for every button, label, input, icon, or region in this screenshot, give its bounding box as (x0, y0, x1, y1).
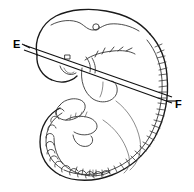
somite-tick (154, 120, 162, 122)
section-leader-left (22, 44, 30, 48)
dorsal-inner-line (64, 40, 162, 175)
somites-dorsal-group (75, 44, 167, 176)
somite-tick (159, 80, 167, 81)
inner-tail-marks-group (66, 112, 97, 177)
head-inner-contour (51, 21, 139, 31)
heart-inner-mark (100, 82, 103, 97)
hindgut-tick (85, 112, 87, 117)
head-group (36, 9, 150, 82)
arch-tooth-2 (102, 48, 105, 54)
tail-scallop (46, 133, 54, 138)
somite-tick (152, 125, 160, 128)
dorsal-outline (60, 34, 168, 180)
hindgut-outline (66, 116, 97, 135)
somite-tick (159, 74, 167, 75)
hindgut-tick (70, 115, 71, 120)
somite-tick (157, 109, 165, 110)
section-label-e: E (13, 39, 20, 50)
optic-vesicle-inner (64, 68, 74, 73)
tail-scallops-group (46, 109, 110, 178)
head-lower-left-outline (37, 55, 77, 82)
somite-tick (158, 103, 166, 104)
section-plane-group (22, 44, 176, 103)
arch-groove-2 (92, 58, 95, 73)
section-label-f: F (175, 99, 182, 110)
hindgut-tick (75, 113, 76, 118)
tail-scallop (46, 141, 54, 146)
embryo-figure: E F (0, 0, 194, 192)
tail-loop-mark (73, 135, 93, 146)
somite-tick (156, 114, 164, 116)
arch-tooth-5 (126, 48, 132, 51)
section-line-upper (24, 45, 172, 97)
somite-tick (159, 86, 167, 87)
body-flexure-line-2 (103, 120, 129, 173)
embryo-diagram-svg (0, 0, 194, 192)
lens-mark (65, 55, 70, 59)
head-outline (36, 9, 150, 55)
